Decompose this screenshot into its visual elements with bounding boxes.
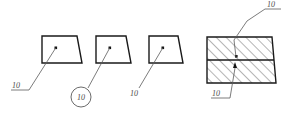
lower-layer-hatch — [207, 60, 276, 83]
part-1-outline — [42, 36, 82, 63]
part-3-group[interactable]: 10 — [130, 36, 183, 98]
drawing-surface: 10 10 10 10 — [0, 0, 283, 120]
upper-layer-hatch — [207, 37, 274, 60]
part-1-group[interactable]: 10 — [11, 36, 82, 90]
callout-bottom-label: 10 — [212, 89, 220, 98]
section-block-group[interactable]: 10 10 — [207, 0, 281, 98]
callout-top-label: 10 — [267, 0, 275, 9]
part-3-label: 10 — [130, 89, 138, 98]
part-2-label: 10 — [77, 93, 85, 102]
part-2-outline — [96, 36, 131, 63]
part-3-outline — [149, 36, 183, 63]
part-2-group[interactable]: 10 — [71, 36, 131, 107]
part-1-label: 10 — [12, 81, 20, 90]
technical-drawing-canvas: 10 10 10 10 — [0, 0, 283, 120]
